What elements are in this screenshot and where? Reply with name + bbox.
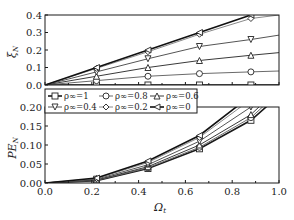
x-tick-label: 1.0 bbox=[271, 186, 287, 197]
data-point-marker bbox=[248, 69, 254, 75]
y-tick-label: 0.0 bbox=[26, 80, 42, 91]
series-ρ∞=0 bbox=[45, 6, 279, 85]
legend-label: ρ∞=0.4 bbox=[64, 102, 97, 112]
series-ρ∞=0.4 bbox=[45, 35, 279, 85]
y-tick-label: 0.05 bbox=[20, 159, 42, 170]
series-ρ∞=0.2 bbox=[45, 69, 279, 183]
upper-panel-frame bbox=[45, 15, 279, 85]
series-line bbox=[45, 35, 279, 85]
legend-label: ρ∞=0.2 bbox=[115, 102, 148, 112]
y-tick-label: 0.4 bbox=[26, 10, 42, 21]
upper-y-axis-label: ξN bbox=[6, 45, 20, 58]
lower-y-axis-label: PEN bbox=[6, 136, 20, 159]
legend-label: ρ∞=0 bbox=[166, 102, 191, 112]
y-tick-label: 0.2 bbox=[26, 45, 42, 56]
series-line bbox=[45, 6, 279, 85]
y-tick-label: 0.15 bbox=[20, 121, 42, 132]
x-tick-label: 0.0 bbox=[37, 186, 53, 197]
series-ρ∞=0.2 bbox=[45, 15, 279, 85]
lower-panel-plot-area bbox=[45, 65, 279, 184]
upper-panel: 0.00.10.20.30.4 bbox=[26, 6, 279, 90]
x-tick-label: 0.2 bbox=[84, 186, 100, 197]
legend-label: ρ∞=1 bbox=[64, 91, 89, 101]
legend-label: ρ∞=0.6 bbox=[166, 91, 199, 101]
y-tick-label: 0.3 bbox=[26, 27, 42, 38]
legend-marker bbox=[52, 93, 58, 99]
legend-label: ρ∞=0.8 bbox=[115, 91, 148, 101]
series-line bbox=[45, 53, 279, 85]
data-point-marker bbox=[145, 73, 151, 79]
y-tick-label: 0.1 bbox=[26, 62, 42, 73]
x-tick-label: 0.8 bbox=[224, 186, 240, 197]
legend: ρ∞=1ρ∞=0.8ρ∞=0.6ρ∞=0.4ρ∞=0.2ρ∞=0 bbox=[45, 89, 199, 113]
upper-panel-plot-area bbox=[45, 6, 279, 88]
x-tick-label: 0.4 bbox=[131, 186, 147, 197]
data-point-marker bbox=[196, 71, 202, 77]
y-tick-label: 0.10 bbox=[20, 140, 42, 151]
x-tick-label: 0.6 bbox=[177, 186, 193, 197]
data-point-marker bbox=[248, 96, 254, 102]
chart-figure: 0.00.10.20.30.40.000.050.100.150.200.00.… bbox=[0, 0, 294, 220]
data-point-marker bbox=[248, 93, 254, 99]
x-axis-label: Ωt bbox=[153, 201, 166, 215]
series-line bbox=[45, 69, 279, 183]
series-line bbox=[45, 15, 279, 85]
series-ρ∞=0.6 bbox=[45, 52, 279, 85]
legend-marker bbox=[103, 93, 109, 99]
y-tick-label: 0.20 bbox=[20, 102, 42, 113]
series-ρ∞=0.8 bbox=[45, 69, 279, 85]
